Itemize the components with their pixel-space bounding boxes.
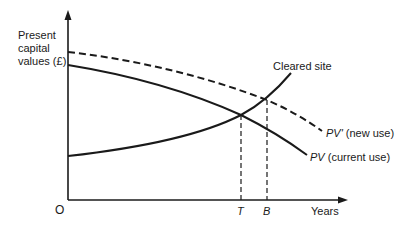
x-axis-label: Years [311, 205, 339, 218]
pv-current-desc: (current use) [325, 151, 390, 163]
pv-current-use-label: PV (current use) [310, 151, 390, 164]
y-axis-label-line-2: capital [18, 42, 66, 55]
y-axis-label: Present capital values (£) [18, 29, 66, 68]
cleared-site-curve [68, 73, 291, 156]
y-axis-label-line-1: Present [18, 29, 66, 42]
origin-label: O [55, 204, 64, 217]
pv-current-symbol: PV [310, 151, 325, 163]
x-axis-arrow-icon [338, 197, 348, 204]
pv-new-symbol: PV' [326, 127, 343, 139]
pv-new-use-label: PV' (new use) [326, 127, 394, 140]
y-axis-arrow-icon [65, 10, 72, 20]
t-label: T [237, 205, 244, 218]
y-axis-label-line-3: values (£) [18, 55, 66, 68]
b-label: B [263, 205, 270, 218]
redevelopment-timing-diagram: Present capital values (£) O T B Years C… [0, 0, 407, 226]
pv-current-use-curve [68, 65, 307, 155]
pv-new-desc: (new use) [343, 127, 394, 139]
cleared-site-label: Cleared site [273, 60, 332, 73]
